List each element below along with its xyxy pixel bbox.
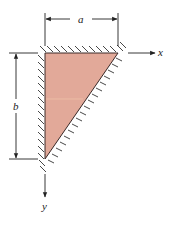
triangular-plate-diagram: a b x y (0, 0, 172, 227)
top-edge-hatching (40, 42, 126, 52)
triangular-plate (45, 53, 118, 159)
dimension-a-label: a (78, 13, 84, 25)
y-axis-label: y (41, 200, 47, 212)
x-axis-label: x (157, 46, 163, 58)
dimension-b-label: b (13, 100, 19, 112)
